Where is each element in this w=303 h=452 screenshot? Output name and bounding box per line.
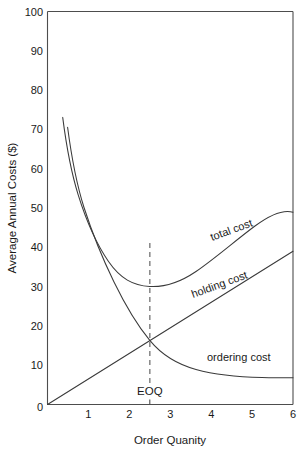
y-tick-label: 30 xyxy=(31,281,43,293)
eoq-annotation-label: EOQ xyxy=(137,385,163,397)
y-axis-title: Average Annual Costs ($) xyxy=(6,142,18,273)
y-axis-tick-labels: 100 90 80 70 60 50 40 30 20 10 0 xyxy=(25,6,43,413)
y-tick-label: 90 xyxy=(31,45,43,57)
series-line-holding-cost xyxy=(48,251,294,404)
y-tick-label: 10 xyxy=(31,359,43,371)
series-line-ordering-cost xyxy=(68,127,293,378)
series-line-total-cost xyxy=(63,117,293,286)
y-tick-label: 70 xyxy=(31,123,43,135)
series-label-ordering-cost: ordering cost xyxy=(207,351,271,363)
x-axis-tick-labels: 1 2 3 4 5 6 xyxy=(85,408,296,420)
series-label-total-cost: total cost xyxy=(209,217,254,243)
x-tick-label: 3 xyxy=(167,408,173,420)
eoq-cost-chart-figure: 100 90 80 70 60 50 40 30 20 10 0 1 2 3 4… xyxy=(0,0,303,452)
x-axis-title: Order Quanity xyxy=(134,434,206,446)
chart-canvas: 100 90 80 70 60 50 40 30 20 10 0 1 2 3 4… xyxy=(0,0,303,452)
y-tick-label: 50 xyxy=(31,202,43,214)
y-tick-label: 60 xyxy=(31,163,43,175)
x-tick-label: 2 xyxy=(126,408,132,420)
x-tick-label: 1 xyxy=(85,408,91,420)
y-tick-label: 0 xyxy=(37,401,43,413)
y-tick-label: 100 xyxy=(25,6,43,18)
x-tick-label: 6 xyxy=(290,408,296,420)
y-tick-label: 80 xyxy=(31,84,43,96)
y-tick-label: 20 xyxy=(31,320,43,332)
x-tick-label: 5 xyxy=(249,408,255,420)
y-tick-label: 40 xyxy=(31,241,43,253)
x-tick-label: 4 xyxy=(208,408,214,420)
